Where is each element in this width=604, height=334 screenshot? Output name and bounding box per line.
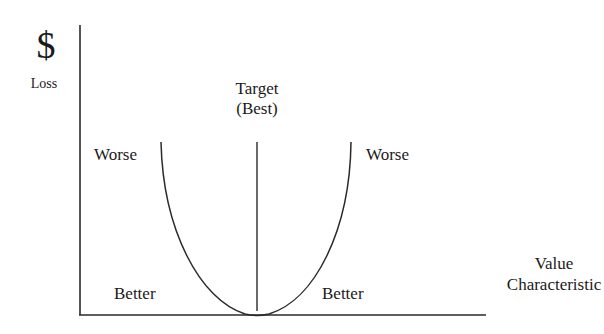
worse-right-label: Worse bbox=[366, 146, 409, 163]
x-axis-label-line1: Value bbox=[504, 253, 604, 274]
target-label: Target (Best) bbox=[212, 79, 302, 119]
better-left-label: Better bbox=[114, 285, 156, 302]
x-axis-label: Value Characteristic bbox=[504, 253, 604, 295]
target-label-line1: Target bbox=[212, 79, 302, 99]
y-axis-label: Loss bbox=[22, 77, 66, 91]
better-right-label: Better bbox=[322, 285, 364, 302]
target-label-line2: (Best) bbox=[212, 99, 302, 119]
dollar-symbol: $ bbox=[28, 26, 64, 64]
x-axis-label-line2: Characteristic bbox=[504, 274, 604, 295]
worse-left-label: Worse bbox=[94, 146, 137, 163]
